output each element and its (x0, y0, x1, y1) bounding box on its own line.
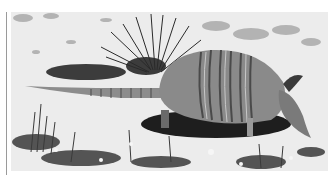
armadillo-illustration (11, 12, 328, 171)
left-border-rule (6, 12, 7, 175)
armadillo-photo (11, 12, 328, 171)
